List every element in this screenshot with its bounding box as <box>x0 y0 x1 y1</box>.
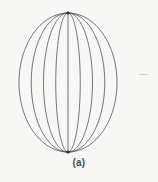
meridian-curve <box>56 13 68 152</box>
meridian-sphere-diagram <box>0 0 158 182</box>
meridian-curve <box>68 13 80 152</box>
south-pole-marker <box>66 150 69 153</box>
figure-caption-label: (a) <box>0 157 158 169</box>
meridian-curve <box>31 13 68 152</box>
edge-artifact-mark <box>139 74 148 75</box>
meridian-curve-group <box>19 13 117 152</box>
north-pole-marker <box>66 11 69 14</box>
figure-container: (a) <box>0 0 158 182</box>
meridian-curve <box>68 13 105 152</box>
